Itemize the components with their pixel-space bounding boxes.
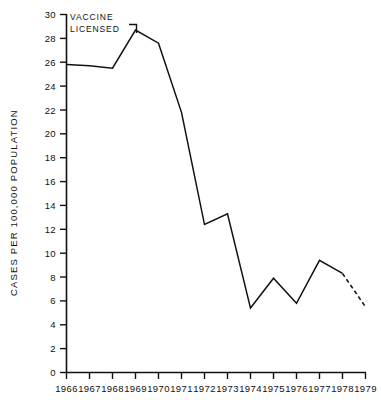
x-tick-label-1971: 1971 — [170, 383, 193, 394]
measles-incidence-chart: CASES PER 100,000 POPULATION — [0, 0, 381, 400]
x-tick-label-1972: 1972 — [193, 383, 216, 394]
y-tick-label-28: 28 — [45, 33, 56, 44]
x-tick-label-1966: 1966 — [55, 383, 78, 394]
y-axis-label: CASES PER 100,000 POPULATION — [8, 109, 19, 296]
y-tick-label-2: 2 — [50, 343, 56, 354]
chart-svg: CASES PER 100,000 POPULATION — [0, 0, 381, 400]
x-tick-label-1974: 1974 — [239, 383, 262, 394]
y-tick-label-12: 12 — [45, 224, 56, 235]
y-tick-label-24: 24 — [45, 81, 56, 92]
y-tick-label-14: 14 — [45, 200, 56, 211]
x-tick-label-1979: 1979 — [354, 383, 377, 394]
y-tick-label-6: 6 — [50, 295, 56, 306]
y-tick-label-18: 18 — [45, 152, 56, 163]
x-axis-ticks — [67, 373, 366, 380]
y-axis-ticks — [60, 15, 67, 373]
y-tick-label-30: 30 — [45, 9, 56, 20]
x-tick-label-1967: 1967 — [78, 383, 101, 394]
y-tick-label-22: 22 — [45, 105, 56, 116]
x-tick-label-1969: 1969 — [124, 383, 147, 394]
x-tick-label-1968: 1968 — [101, 383, 124, 394]
vaccine-licensed-annotation: VACCINE LICENSED — [70, 12, 137, 34]
x-tick-label-1973: 1973 — [216, 383, 239, 394]
x-tick-label-1978: 1978 — [331, 383, 354, 394]
y-tick-label-10: 10 — [45, 248, 56, 259]
y-tick-label-4: 4 — [50, 319, 56, 330]
x-axis-tick-labels: 1966 1967 1968 1969 1970 1971 1972 1973 … — [55, 383, 377, 394]
annotation-line-2: LICENSED — [70, 24, 120, 34]
x-tick-label-1976: 1976 — [285, 383, 308, 394]
y-tick-label-8: 8 — [50, 272, 56, 283]
y-tick-label-0: 0 — [50, 367, 56, 378]
y-axis-tick-labels: 0 2 4 6 8 10 12 14 16 18 20 22 24 26 28 … — [45, 9, 56, 378]
data-series-dashed-segment — [343, 273, 366, 306]
x-tick-label-1977: 1977 — [308, 383, 331, 394]
y-tick-label-26: 26 — [45, 57, 56, 68]
annotation-line-1: VACCINE — [70, 12, 113, 22]
data-series-line — [67, 30, 343, 308]
x-tick-label-1975: 1975 — [262, 383, 285, 394]
y-tick-label-20: 20 — [45, 128, 56, 139]
x-tick-label-1970: 1970 — [147, 383, 170, 394]
annotation-bracket-icon — [129, 25, 137, 34]
y-tick-label-16: 16 — [45, 176, 56, 187]
